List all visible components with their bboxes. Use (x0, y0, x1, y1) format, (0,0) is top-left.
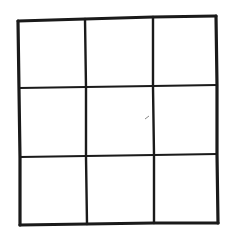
grid-border-bottom (20, 223, 218, 225)
grid-line-vertical-1 (85, 19, 87, 224)
grid-line-horizontal-2 (20, 154, 217, 157)
grid-border-top (18, 16, 216, 21)
grid-diagram (0, 0, 239, 234)
grid-border-right (216, 16, 218, 223)
grid-border-left (18, 21, 20, 225)
grid-line-horizontal-1 (19, 85, 217, 88)
grid-line-vertical-2 (153, 17, 154, 223)
stray-mark (145, 116, 149, 119)
